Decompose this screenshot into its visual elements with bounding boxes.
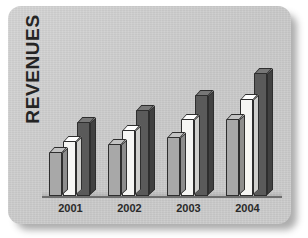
bar-side-face <box>180 133 186 195</box>
bar-side-face <box>62 148 68 195</box>
x-axis-tick-label: 2002 <box>106 202 153 214</box>
bar-side-face <box>76 137 82 195</box>
bar-group-2003 <box>167 14 214 196</box>
bar-side-face <box>267 69 273 195</box>
x-axis-tick-label: 2004 <box>224 202 271 214</box>
x-axis-tick-label: 2003 <box>165 202 212 214</box>
x-axis-tick-label: 2001 <box>47 202 94 214</box>
chart-card: REVENUES 2001 2002 2003 2004 <box>8 6 291 224</box>
plot-area <box>42 16 282 198</box>
bar-group-2004 <box>226 14 273 196</box>
bar-2001-series-1 <box>49 152 62 196</box>
bar-2004-series-1 <box>226 119 239 196</box>
bar-group-2002 <box>108 14 155 196</box>
bar-2003-series-1 <box>167 137 180 196</box>
y-axis-title: REVENUES <box>22 6 44 134</box>
bar-side-face <box>135 126 141 195</box>
bar-side-face <box>208 91 214 195</box>
bar-side-face <box>239 115 245 195</box>
bar-side-face <box>121 140 127 195</box>
x-axis-labels: 2001 2002 2003 2004 <box>42 202 282 220</box>
bar-side-face <box>149 106 155 195</box>
x-axis-line <box>42 196 282 198</box>
bar-side-face <box>194 115 200 195</box>
bar-2002-series-1 <box>108 144 121 196</box>
bar-side-face <box>253 95 259 195</box>
bar-side-face <box>90 118 96 195</box>
bar-group-2001 <box>49 14 96 196</box>
